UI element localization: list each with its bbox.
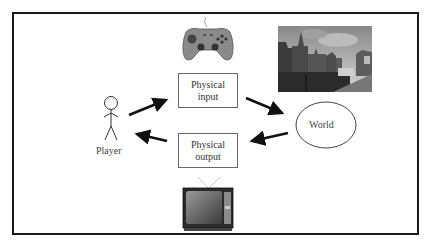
- physical-input-label-line1: Physical: [191, 79, 225, 91]
- physical-output-label-line1: Physical: [191, 139, 225, 151]
- gamepad-icon: [183, 17, 233, 60]
- television-icon: [183, 177, 233, 231]
- physical-output-label-line2: output: [195, 151, 221, 163]
- arrow-input-to-world: [246, 98, 282, 113]
- arrow-player-to-input: [129, 100, 166, 115]
- stick-figure-icon: [104, 97, 118, 141]
- city-canal-photo: [278, 26, 372, 92]
- player-label: Player: [96, 145, 122, 156]
- physical-input-node: Physical input: [178, 73, 238, 108]
- arrow-output-to-player: [137, 134, 167, 141]
- physical-output-node: Physical output: [178, 133, 238, 168]
- world-node-label: World: [309, 119, 334, 130]
- physical-input-label-line2: input: [198, 91, 219, 103]
- arrow-world-to-output: [252, 133, 288, 141]
